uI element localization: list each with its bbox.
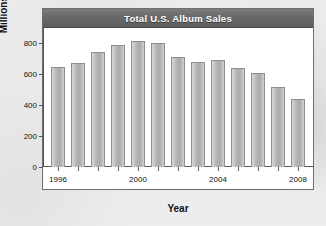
bar-1997 bbox=[71, 63, 85, 167]
bar-2006 bbox=[251, 73, 265, 167]
y-axis-tick-label: 400 bbox=[24, 101, 37, 110]
bar-1998 bbox=[91, 52, 105, 167]
y-axis-tick-label: 0 bbox=[33, 163, 37, 172]
bar-1996 bbox=[51, 67, 65, 167]
bar-2003 bbox=[191, 62, 205, 167]
x-axis-tick bbox=[298, 167, 299, 171]
y-axis-tick-label: 800 bbox=[24, 39, 37, 48]
y-axis-tick bbox=[39, 43, 43, 44]
bar-2004 bbox=[211, 60, 225, 167]
x-axis-tick-label: 2008 bbox=[289, 175, 307, 184]
x-axis-tick bbox=[258, 167, 259, 171]
x-axis-tick bbox=[78, 167, 79, 171]
bar-2001 bbox=[151, 43, 165, 167]
x-axis-tick bbox=[98, 167, 99, 171]
chart-figure: Total U.S. Album Sales 0200400600800 199… bbox=[42, 8, 314, 190]
bar-2000 bbox=[131, 41, 145, 167]
x-axis-tick bbox=[118, 167, 119, 171]
x-axis-tick bbox=[178, 167, 179, 171]
bar-2002 bbox=[171, 57, 185, 167]
x-axis-tick-label: 2000 bbox=[129, 175, 147, 184]
x-axis-tick bbox=[218, 167, 219, 171]
x-axis-tick bbox=[278, 167, 279, 171]
y-axis-tick bbox=[39, 167, 43, 168]
x-axis-tick bbox=[198, 167, 199, 171]
bar-2007 bbox=[271, 87, 285, 167]
x-axis-tick-label: 2004 bbox=[209, 175, 227, 184]
bar-1999 bbox=[111, 45, 125, 167]
x-axis-tick bbox=[58, 167, 59, 171]
x-axis-title: Year bbox=[42, 203, 314, 214]
y-axis-tick bbox=[39, 74, 43, 75]
y-axis-tick-label: 200 bbox=[24, 132, 37, 141]
chart-title-band: Total U.S. Album Sales bbox=[43, 9, 313, 28]
y-axis-tick bbox=[39, 105, 43, 106]
bar-2005 bbox=[231, 68, 245, 167]
x-axis-tick-label: 1996 bbox=[49, 175, 67, 184]
bar-2008 bbox=[291, 99, 305, 167]
x-axis-tick bbox=[158, 167, 159, 171]
bar-series bbox=[44, 28, 312, 167]
x-axis-tick bbox=[138, 167, 139, 171]
y-axis-tick-label: 600 bbox=[24, 70, 37, 79]
y-axis-title: Millions sold bbox=[0, 0, 9, 58]
plot-area: 0200400600800 1996200020042008 bbox=[43, 28, 313, 189]
x-axis-tick bbox=[238, 167, 239, 171]
chart-title: Total U.S. Album Sales bbox=[124, 13, 232, 24]
y-axis-tick bbox=[39, 136, 43, 137]
